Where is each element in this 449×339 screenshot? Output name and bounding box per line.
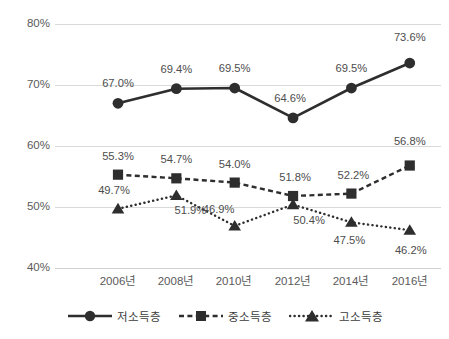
data-label-중소득층-2008년: 54.7%: [160, 153, 192, 165]
legend-item-mid-income[interactable]: 중소득층: [178, 308, 272, 324]
circle-marker-solid-line-icon: [67, 309, 113, 323]
data-label-고소득층-2006년: 49.7%: [98, 184, 130, 196]
data-label-고소득층-2008년: 51.9%: [174, 204, 206, 216]
triangle-marker-dotted-line-icon: [289, 309, 335, 323]
square-marker-dashed-line-icon: [178, 309, 224, 323]
x-axis: 2006년 2008년 2010년 2012년 2014년 2016년: [0, 272, 449, 294]
data-label-고소득층-2010년: 46.9%: [203, 203, 235, 215]
data-label-고소득층-2012년: 50.4%: [293, 214, 325, 226]
legend-label-mid-income: 중소득층: [228, 308, 272, 324]
legend-label-low-income: 저소득층: [117, 308, 161, 324]
data-label-저소득층-2006년: 67.0%: [102, 77, 134, 89]
data-label-중소득층-2010년: 54.0%: [219, 158, 251, 170]
data-label-저소득층-2016년: 73.6%: [394, 31, 426, 43]
legend-label-high-income: 고소득층: [339, 308, 383, 324]
data-label-고소득층-2016년: 46.2%: [395, 244, 427, 256]
x-tick-label-2016: 2016년: [392, 272, 429, 288]
data-label-저소득층-2010년: 69.5%: [219, 62, 251, 74]
data-label-저소득층-2014년: 69.5%: [336, 62, 368, 74]
data-label-고소득층-2014년: 47.5%: [334, 234, 366, 246]
data-label-중소득층-2014년: 52.2%: [338, 169, 370, 181]
line-chart: 80% 70% 60% 50% 40% 67.0%69.4%69.5%64.6%…: [0, 0, 449, 339]
x-tick-label-2014: 2014년: [333, 272, 370, 288]
x-tick-label-2008: 2008년: [158, 272, 195, 288]
data-label-저소득층-2012년: 64.6%: [274, 92, 306, 104]
data-label-중소득층-2016년: 56.8%: [394, 135, 426, 147]
data-label-중소득층-2012년: 51.8%: [279, 171, 311, 183]
data-label-중소득층-2006년: 55.3%: [102, 150, 134, 162]
x-tick-label-2012: 2012년: [275, 272, 312, 288]
data-label-저소득층-2008년: 69.4%: [160, 63, 192, 75]
legend: 저소득층 중소득층 고소득층: [0, 303, 449, 329]
legend-item-low-income[interactable]: 저소득층: [67, 308, 161, 324]
legend-item-high-income[interactable]: 고소득층: [289, 308, 383, 324]
x-tick-label-2010: 2010년: [216, 272, 253, 288]
x-tick-label-2006: 2006년: [100, 272, 137, 288]
